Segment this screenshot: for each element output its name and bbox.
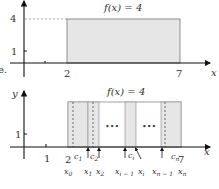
ellipsis-1: ••• — [105, 122, 119, 131]
x-axis-label: x — [204, 146, 210, 157]
label-c1: c1 — [74, 152, 82, 162]
area-rectangle — [67, 19, 180, 63]
label-x1: x1 — [84, 167, 92, 177]
bottom-function-label: f(x) = 4 — [106, 86, 145, 97]
strip-1 — [68, 102, 88, 147]
figure: f(x) = 4 4 1 2 7 x e. ••• ••• y f(x) = 4… — [0, 0, 219, 189]
tick-label-x-2: 2 — [64, 68, 70, 79]
tick-label-y-1: 1 — [15, 129, 21, 140]
strip-i — [125, 102, 136, 147]
label-xn: xn — [178, 167, 187, 177]
strip-n — [161, 102, 181, 147]
tick-label-y-1: 1 — [11, 46, 17, 57]
top-function-label: f(x) = 4 — [103, 2, 142, 13]
ellipsis-2: ••• — [142, 122, 156, 131]
bottom-graph: ••• ••• y f(x) = 4 1 1 2 7 x c1 c2 ci cn… — [10, 86, 210, 177]
label-x0: x0 — [64, 167, 73, 177]
tick-label-x-7: 7 — [176, 68, 182, 79]
label-xi-1: xi − 1 — [115, 167, 134, 177]
x-axis-label: x — [211, 67, 217, 78]
tick-label-y-4: 4 — [10, 13, 16, 24]
top-graph: f(x) = 4 4 1 2 7 x e. — [0, 1, 217, 79]
figure-label: e. — [0, 64, 7, 75]
strip-2 — [88, 102, 99, 147]
tick-label-x-2: 2 — [65, 154, 71, 165]
label-xn-1: xn − 1 — [152, 167, 173, 177]
label-ci: ci — [128, 151, 134, 161]
label-x2: x2 — [96, 167, 105, 177]
label-xi: xi — [138, 167, 145, 177]
label-c2: c2 — [90, 152, 98, 162]
arrow-xi — [136, 149, 141, 159]
tick-label-x-1: 1 — [44, 153, 50, 164]
y-axis-label: y — [11, 88, 18, 99]
